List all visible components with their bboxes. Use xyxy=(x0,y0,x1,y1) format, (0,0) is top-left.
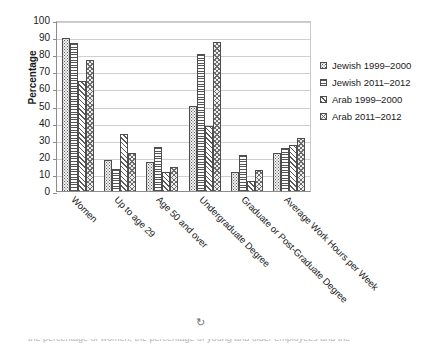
y-axis-tick-label: 50 xyxy=(16,102,50,112)
chart-legend: Jewish 1999–2000Jewish 2011–2012Arab 199… xyxy=(320,57,438,125)
x-axis-tick-labels: WomenUp to age 29Age 50 and overUndergra… xyxy=(56,194,311,294)
x-axis-tick-label-text: Up to age 29 xyxy=(112,194,157,239)
y-axis-tick-label: 30 xyxy=(16,136,50,146)
legend-swatch-icon xyxy=(320,96,327,103)
y-axis-tick-label: 70 xyxy=(16,67,50,77)
clipped-caption: the percentage of women, the percentage … xyxy=(0,339,441,345)
bar xyxy=(112,169,120,191)
y-axis-tick-label: 60 xyxy=(16,84,50,94)
x-axis-tick-label-text: Undergraduate Degree xyxy=(197,194,272,269)
y-axis-tick-labels: 1009080706050403020100 xyxy=(16,21,50,192)
bar-group xyxy=(268,22,310,191)
bar xyxy=(154,147,162,191)
legend-swatch-icon xyxy=(320,62,327,69)
bar xyxy=(146,162,154,191)
bar xyxy=(128,153,136,191)
bar xyxy=(104,160,112,191)
bar xyxy=(239,155,247,191)
bar xyxy=(189,106,197,192)
y-axis-tick-label: 100 xyxy=(16,16,50,26)
bar xyxy=(297,138,305,191)
legend-label: Arab 1999–2000 xyxy=(332,94,402,105)
plot-area xyxy=(56,21,311,192)
legend-swatch-icon xyxy=(320,113,327,120)
bar xyxy=(213,42,221,191)
bar-group xyxy=(141,22,183,191)
bar xyxy=(78,81,86,191)
bar-group xyxy=(99,22,141,191)
bar xyxy=(70,43,78,191)
bar xyxy=(197,54,205,191)
legend-item[interactable]: Arab 1999–2000 xyxy=(320,91,438,108)
y-axis-tick-label: 20 xyxy=(16,153,50,163)
legend-item[interactable]: Jewish 2011–2012 xyxy=(320,74,438,91)
legend-label: Jewish 1999–2000 xyxy=(332,60,411,71)
bar xyxy=(120,134,128,191)
y-axis-tick-label: 80 xyxy=(16,50,50,60)
bar xyxy=(62,38,70,191)
bar xyxy=(255,170,263,191)
legend-item[interactable]: Arab 2011–2012 xyxy=(320,108,438,125)
x-axis-tick-label-text: Women xyxy=(69,194,99,224)
bar-group xyxy=(184,22,226,191)
legend-item[interactable]: Jewish 1999–2000 xyxy=(320,57,438,74)
y-axis-tick-label: 0 xyxy=(16,187,50,197)
legend-swatch-icon xyxy=(320,79,327,86)
bar xyxy=(162,172,170,191)
bar xyxy=(231,172,239,191)
bar xyxy=(289,145,297,191)
bar xyxy=(205,126,213,191)
bar xyxy=(273,153,281,191)
y-axis-tick-label: 90 xyxy=(16,33,50,43)
bar-group xyxy=(57,22,99,191)
legend-label: Jewish 2011–2012 xyxy=(332,77,411,88)
bar-group xyxy=(226,22,268,191)
y-axis-tick-label: 40 xyxy=(16,119,50,129)
y-axis-tick-label: 10 xyxy=(16,170,50,180)
bar xyxy=(170,167,178,191)
legend-label: Arab 2011–2012 xyxy=(332,111,402,122)
clipped-caption-text: the percentage of women, the percentage … xyxy=(28,339,350,343)
chart-figure: Percentage 1009080706050403020100 WomenU… xyxy=(0,0,441,345)
bar xyxy=(86,60,94,191)
bar xyxy=(281,148,289,191)
bar xyxy=(247,181,255,191)
bar-groups xyxy=(57,22,310,191)
stray-mark-icon: ↻ xyxy=(196,316,205,329)
